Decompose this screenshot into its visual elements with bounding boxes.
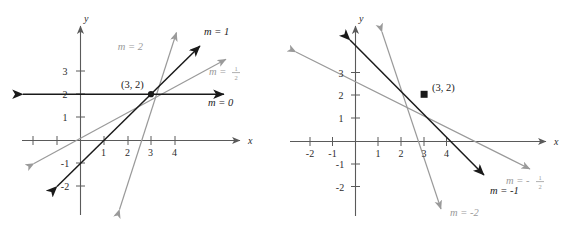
point-label-3-2: (3, 2) (121, 79, 144, 91)
point-3-2 (148, 91, 154, 97)
point-3-2 (421, 91, 428, 98)
x-tick-3: 3 (148, 147, 153, 158)
y-tick-neg1: -1 (336, 159, 344, 170)
y-tick-neg2: -2 (336, 182, 344, 193)
slope-label-m-neg-one-half-numerator: 1 (538, 174, 541, 181)
y-tick-3: 3 (339, 68, 344, 79)
y-tick-neg2: -2 (61, 181, 69, 192)
x-tick-1: 1 (376, 148, 381, 159)
negative-slopes-panel: x y -2 -1 1 2 3 4 3 2 1 -1 -2 (3, 2) m =… (284, 0, 568, 229)
y-tick-1: 1 (63, 112, 68, 123)
x-tick-1: 1 (101, 147, 106, 158)
slope-label-m-neg-one-half-lead: m = - (506, 175, 530, 186)
line-m-two (120, 33, 177, 210)
left-axes (22, 26, 240, 215)
y-axis-label: y (358, 13, 364, 24)
slope-label-m-one-half-lead: m = (209, 66, 226, 77)
x-tick-3: 3 (422, 148, 427, 159)
x-axis-label: x (247, 135, 253, 146)
positive-slopes-panel: x y 1 2 3 4 3 2 1 -1 -2 (3, 2) m = 2 m =… (0, 0, 284, 229)
y-tick-neg1: -1 (61, 158, 69, 169)
y-tick-2: 2 (339, 90, 344, 101)
y-tick-2: 2 (63, 89, 68, 100)
slope-label-m-neg1: m = -1 (490, 185, 519, 196)
right-plot-svg: x y -2 -1 1 2 3 4 3 2 1 -1 -2 (3, 2) m =… (284, 0, 568, 229)
point-label-3-2: (3, 2) (432, 82, 455, 94)
figure-container: x y 1 2 3 4 3 2 1 -1 -2 (3, 2) m = 2 m =… (0, 0, 568, 229)
y-axis-label: y (83, 13, 89, 24)
slope-label-m0: m = 0 (208, 97, 234, 108)
x-tick-4: 4 (444, 148, 449, 159)
line-m-one (57, 46, 200, 187)
slope-label-m-one-half-numerator: 1 (234, 65, 237, 72)
left-plot-svg: x y 1 2 3 4 3 2 1 -1 -2 (3, 2) m = 2 m =… (0, 0, 284, 229)
x-tick-neg2: -2 (306, 148, 314, 159)
y-tick-3: 3 (63, 66, 68, 77)
slope-label-m-neg2: m = -2 (450, 207, 479, 218)
slope-label-m2: m = 2 (118, 41, 144, 52)
x-axis-label: x (553, 136, 559, 147)
x-tick-2: 2 (399, 148, 404, 159)
slope-label-m-neg-one-half-denominator: 2 (538, 183, 541, 190)
y-tick-1: 1 (339, 113, 344, 124)
x-tick-neg1: -1 (328, 148, 336, 159)
x-tick-2: 2 (125, 147, 130, 158)
slope-label-m-one-half-denominator: 2 (234, 74, 237, 81)
slope-label-m1: m = 1 (204, 26, 229, 37)
line-m-neg-one (350, 40, 484, 175)
slope-label-m-one-half: m = 1 2 (209, 65, 240, 81)
x-tick-4: 4 (172, 147, 177, 158)
